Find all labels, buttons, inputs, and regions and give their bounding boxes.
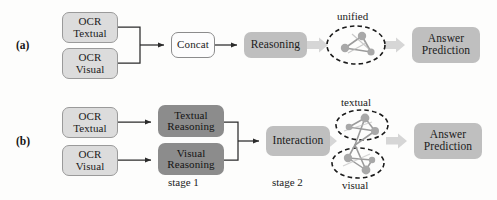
node-ocr-visual-a-line2: Visual [76,64,105,75]
node-ocr-visual-b[interactable]: OCR Visual [62,145,118,176]
graph-unified [327,26,385,64]
block-arrow-reasoning-to-graph-a [307,38,328,53]
node-answer-prediction-a-line2: Prediction [422,45,470,57]
node-textual-reasoning[interactable]: Textual Reasoning [158,105,224,137]
node-concat[interactable]: Concat [171,32,215,58]
caption-stage-1: stage 1 [168,176,199,188]
graph-textual-visual [332,110,388,178]
node-visual-reasoning[interactable]: Visual Reasoning [158,143,224,175]
node-textual-reasoning-line2: Reasoning [167,121,214,132]
node-visual-reasoning-line2: Reasoning [167,159,214,170]
node-reasoning-label: Reasoning [251,39,300,51]
node-answer-prediction-b-line2: Prediction [424,141,472,153]
graph-label-visual: visual [342,179,368,191]
node-interaction-label: Interaction [273,135,324,147]
node-ocr-textual-b-line2: Textual [73,123,107,134]
node-ocr-visual-a-line1: OCR [79,52,102,63]
node-reasoning[interactable]: Reasoning [244,32,307,58]
graph-nodes-unified [341,32,375,56]
row-label-b: (b) [16,135,30,147]
edge-ocr-visual-to-merge-a [118,45,140,63]
node-ocr-textual-a[interactable]: OCR Textual [62,12,118,43]
node-ocr-textual-a-line2: Textual [73,28,107,39]
caption-stage-2: stage 2 [272,176,303,188]
node-concat-label: Concat [177,39,209,50]
block-arrow-graph-to-answer-b [386,134,407,149]
node-ocr-visual-a[interactable]: OCR Visual [62,48,118,79]
node-ocr-textual-a-line1: OCR [79,16,102,27]
graph-label-textual: textual [341,96,371,108]
edge-visual-reasoning-to-merge-b [224,141,238,160]
figure-canvas: (a) OCR Textual OCR Visual Concat Reason… [0,0,497,200]
node-ocr-textual-b-line1: OCR [79,111,102,122]
node-ocr-visual-b-line1: OCR [79,149,102,160]
edge-textual-reasoning-to-merge-b [224,122,238,141]
node-ocr-visual-b-line2: Visual [76,161,105,172]
node-answer-prediction-a[interactable]: Answer Prediction [412,27,480,63]
graph-label-unified: unified [337,10,368,22]
row-label-a: (a) [16,39,29,51]
dashed-ellipse-unified [327,26,385,64]
edge-ocr-textual-to-merge-a [118,27,140,45]
node-answer-prediction-b[interactable]: Answer Prediction [414,123,482,159]
node-interaction[interactable]: Interaction [266,126,330,156]
graph-edges-unified [345,36,371,52]
node-ocr-textual-b[interactable]: OCR Textual [62,107,118,138]
block-arrow-graph-to-answer-a [384,38,405,53]
